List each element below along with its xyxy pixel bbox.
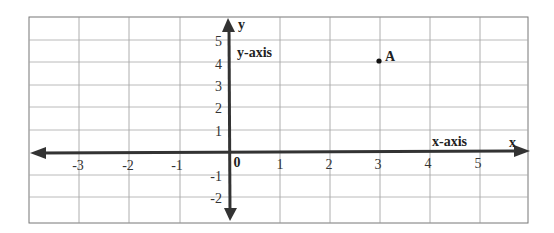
y-axis-label: y-axis	[237, 45, 273, 60]
coordinate-plane: -3 -2 -1 0 1 2 3 4 5 5 4 3 2 1 -1 -2 y y…	[0, 0, 554, 233]
grid-vertical-lines	[79, 17, 480, 223]
x-tick-label: -2	[122, 158, 134, 173]
grid-horizontal-lines	[29, 40, 528, 197]
x-tick-label: 4	[425, 156, 432, 171]
y-tick-label: 5	[215, 34, 222, 49]
y-tick-label: 1	[215, 124, 222, 139]
x-tick-label: 3	[375, 157, 382, 172]
y-axis-up-arrow-icon	[222, 18, 235, 32]
y-tick-label: -2	[210, 191, 222, 206]
y-tick-label: 4	[215, 57, 222, 72]
y-tick-label: 3	[215, 79, 222, 94]
y-axis-down-arrow-icon	[224, 208, 237, 221]
point-a-label: A	[385, 49, 396, 64]
x-tick-label: 2	[326, 157, 333, 172]
x-tick-label: -3	[72, 158, 84, 173]
y-tick-label: 2	[215, 101, 222, 116]
x-axis-label: x-axis	[432, 134, 468, 149]
x-tick-label: -1	[171, 158, 183, 173]
x-tick-label: 5	[475, 156, 482, 171]
point-a-marker	[376, 58, 381, 63]
x-label: x	[509, 135, 516, 150]
y-axis	[222, 18, 237, 221]
grid-border	[29, 17, 528, 223]
y-label: y	[238, 17, 245, 32]
x-axis-left-arrow-icon	[30, 147, 46, 159]
y-tick-label: -1	[210, 169, 222, 184]
origin-label: 0	[234, 155, 241, 170]
x-tick-label: 1	[277, 157, 284, 172]
